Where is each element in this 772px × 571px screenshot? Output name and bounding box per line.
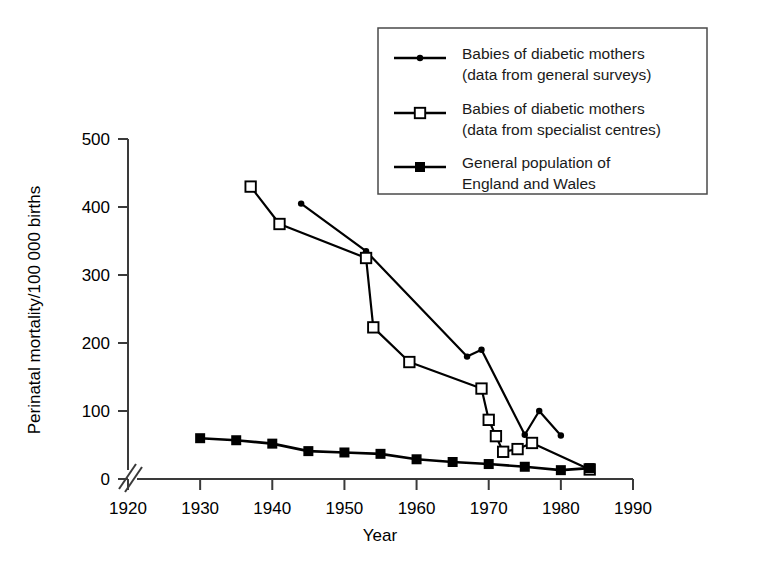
legend-label-line2: (data from specialist centres) [462,121,661,138]
legend-marker-open-square-icon [415,108,425,118]
data-point [376,449,386,459]
y-tick-label: 500 [82,130,110,149]
legend-label-line1: Babies of diabetic mothers [462,45,645,62]
x-tick-label: 1980 [542,499,580,518]
y-tick-label: 400 [82,198,110,217]
data-point [267,439,277,449]
x-tick-label: 1990 [614,499,652,518]
chart-legend: Babies of diabetic mothers(data from gen… [378,28,707,194]
data-point [231,435,241,445]
x-tick-label: 1950 [326,499,364,518]
data-point [298,200,304,206]
data-point [520,462,530,472]
perinatal-mortality-line-chart: 0100200300400500 19201930194019501960197… [0,0,772,571]
legend-label-line1: General population of [462,154,611,171]
data-point [536,408,542,414]
x-tick-label: 1960 [398,499,436,518]
data-point [498,447,508,457]
x-tick-label: 1920 [109,499,147,518]
y-tick-label: 300 [82,266,110,285]
x-tick-label: 1930 [181,499,219,518]
y-tick-label: 100 [82,402,110,421]
data-point [303,446,313,456]
data-point [245,181,255,191]
y-tick-label: 0 [101,470,110,489]
data-point [476,383,486,393]
data-point [195,433,205,443]
data-point [585,463,595,473]
x-axis-title: Year [363,526,398,545]
legend-label-line2: England and Wales [462,175,596,192]
data-point [556,465,566,475]
y-tick-label: 200 [82,334,110,353]
chart-figure: 0100200300400500 19201930194019501960197… [0,0,772,571]
legend-label-line2: (data from general surveys) [462,66,652,83]
y-axis-title: Perinatal mortality/100 000 births [25,186,44,435]
legend-label-line1: Babies of diabetic mothers [462,100,645,117]
data-point [404,357,414,367]
data-point [274,219,284,229]
data-point [464,353,470,359]
legend-marker-filled-circle-icon [417,55,423,61]
data-point [491,431,501,441]
data-point [448,457,458,467]
legend-marker-filled-square-icon [415,162,425,172]
x-tick-label: 1970 [470,499,508,518]
data-point [412,454,422,464]
data-point [484,415,494,425]
data-point [339,447,349,457]
data-point [512,444,522,454]
data-point [527,438,537,448]
data-point [558,432,564,438]
data-point [478,347,484,353]
data-point [484,459,494,469]
data-point [361,253,371,263]
x-tick-label: 1940 [253,499,291,518]
data-point [368,322,378,332]
